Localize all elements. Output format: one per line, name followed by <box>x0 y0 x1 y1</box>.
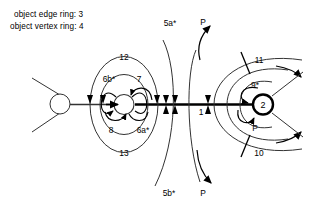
arc-11-arrow <box>276 66 301 77</box>
source-leg-lower <box>32 113 60 132</box>
label-7: 7 <box>137 74 142 84</box>
arrowhead-down-c <box>154 95 160 104</box>
label-10: 10 <box>254 148 264 158</box>
source-node-circle <box>50 94 70 114</box>
label-11: 11 <box>255 55 264 65</box>
label-axis-one: 1 <box>199 107 204 117</box>
label-6b: 6b* <box>103 74 116 84</box>
diagram-canvas: object edge ring: 3 object vertex ring: … <box>0 0 323 207</box>
target-leg-lower <box>272 113 303 137</box>
label-8: 8 <box>109 125 114 135</box>
label-p-top: P <box>200 17 206 27</box>
target-leg-upper <box>272 72 303 96</box>
label-p-node: P <box>252 123 258 133</box>
label-9: 9* <box>251 80 260 90</box>
label-6a: 6a* <box>137 125 150 135</box>
target-node-label: 2 <box>260 100 265 110</box>
edge-7-curve <box>131 88 152 100</box>
arrowhead-down-a <box>87 95 93 104</box>
arc-10-arrow <box>276 132 301 143</box>
arrowhead-up-f <box>205 105 211 114</box>
arrowhead-down-d <box>163 95 169 104</box>
source-node-group <box>32 78 70 132</box>
tick-10 <box>241 135 250 157</box>
source-leg-upper <box>32 78 60 95</box>
graph-diagram: 2 12 13 6b* 7 8 6a* 1 5a* 5b* P P 11 10 … <box>0 0 323 207</box>
label-p-bottom: P <box>200 188 206 198</box>
label-outer-bottom: 13 <box>119 148 129 158</box>
arrowhead-up-d <box>163 105 169 114</box>
arrowhead-down-f <box>205 95 211 104</box>
label-5b: 5b* <box>163 188 176 198</box>
p-top-arrow <box>199 26 210 60</box>
label-5a: 5a* <box>164 18 177 28</box>
label-outer-top: 12 <box>119 52 129 62</box>
tick-11 <box>241 52 250 74</box>
